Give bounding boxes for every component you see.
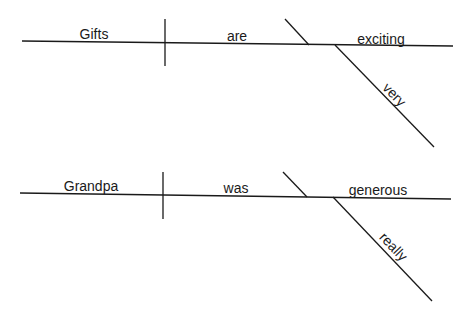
subject-label: Grandpa	[64, 178, 119, 194]
subject-label: Gifts	[80, 26, 109, 42]
modifier-label: really	[376, 229, 411, 264]
predicate-adjective-label: generous	[349, 182, 407, 198]
modifier-line	[333, 197, 432, 301]
modifier-label: very	[380, 79, 410, 109]
verb-label: are	[227, 28, 247, 44]
complement-slash	[283, 172, 307, 197]
diagram-2: Grandpa was generous really	[20, 172, 451, 301]
predicate-adjective-label: exciting	[357, 31, 404, 47]
complement-slash	[285, 19, 309, 45]
modifier-line	[335, 45, 434, 147]
diagram-1: Gifts are exciting very	[22, 19, 453, 147]
sentence-diagrams: Gifts are exciting very Grandpa was gene…	[0, 0, 461, 324]
verb-label: was	[223, 180, 249, 196]
